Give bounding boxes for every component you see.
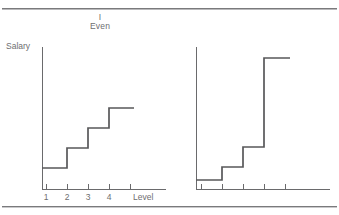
x-tick-label-even-1: 1: [41, 192, 51, 202]
x-tick-label-even-3: 3: [83, 192, 93, 202]
x-tick-label-even-4: 4: [104, 192, 114, 202]
x-axis-label-even: Level: [133, 192, 153, 202]
x-tick-label-even-2: 2: [62, 192, 72, 202]
figure-two-salary-step-charts: I Even Salary Level 1 2 3 4 II Skewed Sa…: [0, 0, 339, 215]
chart-panel-skewed: II Skewed Salary Level 1 2 3 4: [154, 0, 339, 215]
y-axis-label-even: Salary: [6, 41, 30, 51]
chart-name-even: Even: [80, 22, 120, 31]
chart-title-even: I Even: [80, 13, 120, 31]
chart-panel-even: I Even Salary Level 1 2 3 4: [0, 0, 170, 215]
